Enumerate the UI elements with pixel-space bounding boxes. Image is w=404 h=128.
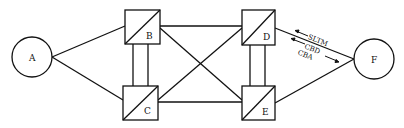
link-a-b (52, 26, 125, 57)
node-a-label: A (28, 53, 36, 63)
node-c-label: C (144, 106, 151, 116)
node-d-label: D (263, 32, 270, 42)
arrow-cba (325, 56, 337, 61)
link-a-c (52, 57, 123, 100)
node-b-label: B (146, 31, 153, 41)
link-e-f (275, 59, 354, 103)
node-e-label: E (262, 107, 269, 117)
network-diagram: A B C D E F SLTM CBD CBA (0, 0, 404, 128)
node-f-label: F (371, 55, 377, 65)
